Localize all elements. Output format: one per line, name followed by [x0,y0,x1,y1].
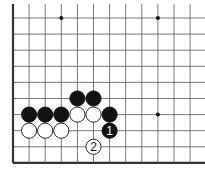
star-point-icon [59,16,63,20]
white-stone [70,107,85,122]
black-stone [70,91,85,106]
black-stone [38,107,53,122]
white-stone [38,123,53,138]
black-stone [86,91,101,106]
star-point-icon [156,16,160,20]
board-grid [13,4,205,163]
black-stone-move-1: 1 [102,123,117,138]
star-point-icon [156,113,160,117]
white-stone [54,123,69,138]
white-stone [22,123,37,138]
white-stone-move-2: 2 [86,139,101,154]
black-stone [22,107,37,122]
move-number-label: 1 [106,124,113,138]
stones-layer: 12 [22,91,118,154]
white-stone [86,107,101,122]
black-stone [54,107,69,122]
black-stone [102,107,117,122]
move-number-label: 2 [90,140,97,154]
go-board-diagram: 12 [0,0,205,178]
